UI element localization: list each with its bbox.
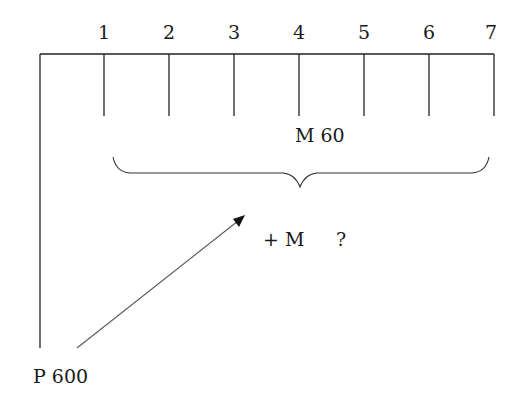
present-value-label: P 600: [33, 367, 88, 386]
period-ticks: [104, 54, 494, 116]
arrow-head-icon: [233, 215, 245, 227]
period-label-7: 7: [485, 23, 497, 42]
curly-brace: [113, 157, 489, 187]
payment-label: M 60: [295, 126, 345, 145]
period-label-4: 4: [293, 23, 305, 42]
period-label-5: 5: [358, 23, 370, 42]
period-label-1: 1: [98, 23, 110, 42]
period-label-2: 2: [163, 23, 175, 42]
unknown-label: ?: [336, 230, 346, 249]
timeline-diagram: [0, 0, 521, 402]
arrow-line: [77, 221, 238, 348]
period-label-3: 3: [228, 23, 240, 42]
period-label-6: 6: [423, 23, 435, 42]
added-payment-label: + M: [263, 230, 304, 249]
